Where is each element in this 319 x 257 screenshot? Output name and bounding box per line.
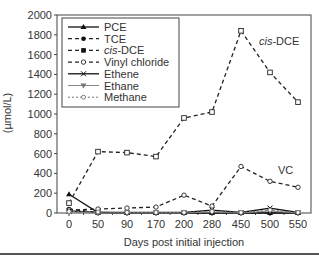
vc-annotation: VC: [278, 164, 293, 176]
y-tick-label: 2000: [28, 9, 52, 21]
x-axis: 05090170200280450500550: [66, 213, 307, 230]
y-tick-label: 1200: [28, 88, 52, 100]
x-tick-label: 500: [261, 218, 279, 230]
y-axis: 0200400600800100012001400160018002000: [28, 9, 57, 219]
x-tick-label: 280: [203, 218, 221, 230]
legend-label: Ethene: [104, 68, 139, 80]
y-tick-label: 0: [46, 207, 52, 219]
x-tick-label: 550: [289, 218, 307, 230]
y-tick-label: 600: [34, 148, 52, 160]
x-axis-label: Days post initial injection: [124, 236, 244, 248]
bottom-divider: [0, 253, 319, 255]
y-tick-label: 200: [34, 187, 52, 199]
legend: PCETCEcis-DCEVinyl chlorideEtheneEthaneM…: [62, 18, 179, 107]
line-chart: 0200400600800100012001400160018002000 05…: [0, 0, 319, 257]
x-tick-label: 50: [92, 218, 104, 230]
x-tick-label: 0: [66, 218, 72, 230]
x-tick-label: 170: [147, 218, 165, 230]
y-tick-label: 1000: [28, 108, 52, 120]
legend-label: cis-DCE: [104, 44, 144, 56]
x-tick-label: 200: [175, 218, 193, 230]
legend-label: Methane: [104, 91, 147, 103]
y-tick-label: 1600: [28, 49, 52, 61]
legend-label: Ethane: [104, 80, 139, 92]
cis-dce-annotation: cis-DCE: [259, 35, 299, 47]
legend-label: PCE: [104, 21, 127, 33]
y-axis-label: (µmol/L): [1, 93, 13, 134]
legend-label: TCE: [104, 33, 126, 45]
y-tick-label: 1800: [28, 29, 52, 41]
x-tick-label: 90: [121, 218, 133, 230]
legend-label: Vinyl chloride: [104, 56, 169, 68]
y-tick-label: 800: [34, 128, 52, 140]
x-tick-label: 450: [232, 218, 250, 230]
series-vinyl-chloride: [67, 164, 300, 212]
y-tick-label: 1400: [28, 68, 52, 80]
y-tick-label: 400: [34, 167, 52, 179]
